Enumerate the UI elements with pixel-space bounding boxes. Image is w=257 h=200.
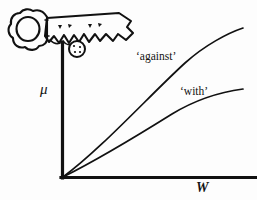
saw-blade-mark-4 <box>98 23 102 27</box>
curve-label-against: ‘against’ <box>136 51 176 63</box>
saw-knob-dot-3 <box>74 51 76 53</box>
saw-blade-mark-1 <box>58 25 62 29</box>
saw-handle-hole <box>17 17 40 41</box>
saw-blade-outline <box>45 13 133 43</box>
figure-canvas: ‘against’ ‘with’ μ W <box>0 0 257 200</box>
curve-label-with: ‘with’ <box>180 86 208 98</box>
saw-illustration <box>9 9 133 57</box>
saw-handle-outline <box>9 9 48 50</box>
saw-blade-mark-2 <box>68 24 72 28</box>
y-axis-label: μ <box>40 82 48 97</box>
saw-knob-dot-1 <box>73 45 75 47</box>
figure-svg <box>0 0 257 200</box>
saw-blade-mark-3 <box>88 24 92 28</box>
saw-knob-dot-4 <box>79 51 81 53</box>
curve-with <box>63 89 243 177</box>
saw-knob-dot-2 <box>79 46 81 48</box>
saw-knob-icon <box>69 41 85 57</box>
x-axis-label: W <box>196 181 208 195</box>
